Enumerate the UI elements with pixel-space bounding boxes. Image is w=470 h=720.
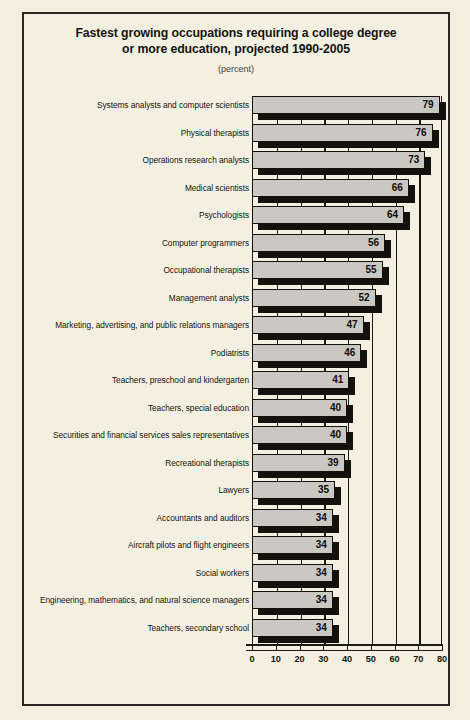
bar-value-label: 40 [330,430,346,440]
bar-face: 40 [252,399,347,417]
bar: 52 [252,289,376,313]
bar-value-label: 66 [392,183,408,193]
bar-category-label: Teachers, special education [29,403,249,413]
bar-face: 35 [252,481,335,499]
bar: 47 [252,316,364,340]
bar-row: Teachers, secondary school34 [24,619,452,647]
plot-area: Systems analysts and computer scientists… [24,90,452,702]
bar-value-label: 47 [347,320,363,330]
x-tick-label: 50 [366,654,376,664]
bar-row: Securities and financial services sales … [24,426,452,454]
bar-row: Occupational therapists55 [24,261,452,289]
x-tick-label: 10 [271,654,281,664]
bar-row: Teachers, preschool and kindergarten41 [24,371,452,399]
bar-category-label: Teachers, preschool and kindergarten [29,375,249,385]
bar-face: 79 [252,96,440,114]
bar-category-label: Physical therapists [29,128,249,138]
bar: 34 [252,619,333,643]
bar-value-label: 52 [358,293,374,303]
bar-face: 46 [252,344,361,362]
bar-value-label: 34 [316,540,332,550]
bar-face: 40 [252,426,347,444]
bar-row: Recreational therapists39 [24,454,452,482]
x-tick-10 [276,644,277,651]
bar-row: Engineering, mathematics, and natural sc… [24,591,452,619]
bar: 46 [252,344,361,368]
x-tick-30 [323,644,324,651]
bar-category-label: Aircraft pilots and flight engineers [29,540,249,550]
bar-face: 39 [252,454,345,472]
bar-row: Psychologists64 [24,206,452,234]
bar-value-label: 41 [332,375,348,385]
x-tick-label: 40 [342,654,352,664]
bar: 41 [252,371,349,395]
chart-subtitle: (percent) [24,64,448,74]
bar-row: Systems analysts and computer scientists… [24,96,452,124]
bar-face: 56 [252,234,385,252]
x-tick-20 [300,644,301,651]
bar-category-label: Engineering, mathematics, and natural sc… [29,595,249,605]
bar-category-label: Occupational therapists [29,265,249,275]
bar-face: 34 [252,591,333,609]
bar-series: Systems analysts and computer scientists… [24,96,452,644]
bar-category-label: Marketing, advertising, and public relat… [29,320,249,330]
bar-category-label: Psychologists [29,210,249,220]
bar-value-label: 35 [318,485,334,495]
bar-row: Lawyers35 [24,481,452,509]
bar-value-label: 39 [328,458,344,468]
bar: 66 [252,179,409,203]
x-tick-label: 70 [413,654,423,664]
bar-category-label: Teachers, secondary school [29,623,249,633]
title-block: Fastest growing occupations requiring a … [24,26,448,74]
x-tick-0 [252,644,253,651]
x-tick-label: 0 [249,654,254,664]
x-tick-label: 30 [318,654,328,664]
bar-row: Medical scientists66 [24,179,452,207]
bar-value-label: 76 [415,128,431,138]
bar-category-label: Systems analysts and computer scientists [29,100,249,110]
bar-category-label: Securities and financial services sales … [29,430,249,440]
bar-value-label: 55 [366,265,382,275]
bar-row: Operations research analysts73 [24,151,452,179]
bar-face: 34 [252,509,333,527]
bar-row: Management analysts52 [24,289,452,317]
bar-face: 34 [252,619,333,637]
bar-face: 66 [252,179,409,197]
bar-row: Accountants and auditors34 [24,509,452,537]
x-tick-80 [442,644,443,651]
bar-row: Computer programmers56 [24,234,452,262]
bar-value-label: 34 [316,595,332,605]
bar: 34 [252,509,333,533]
bar-face: 34 [252,536,333,554]
x-tick-label: 60 [389,654,399,664]
bar-row: Podiatrists46 [24,344,452,372]
chart-title-line-2: or more education, projected 1990-2005 [24,42,448,58]
bar: 73 [252,151,425,175]
bar-face: 73 [252,151,425,169]
bar: 34 [252,536,333,560]
bar-face: 64 [252,206,404,224]
bar: 35 [252,481,335,505]
bar-face: 52 [252,289,376,307]
x-tick-40 [347,644,348,651]
x-tick-70 [418,644,419,651]
bar-value-label: 34 [316,568,332,578]
bar-value-label: 40 [330,403,346,413]
bar-category-label: Lawyers [29,485,249,495]
bar-face: 47 [252,316,364,334]
bar-row: Marketing, advertising, and public relat… [24,316,452,344]
x-tick-label: 20 [294,654,304,664]
bar-category-label: Social workers [29,568,249,578]
x-tick-50 [371,644,372,651]
bar: 56 [252,234,385,258]
bar-value-label: 64 [387,210,403,220]
bar: 34 [252,591,333,615]
bar: 76 [252,124,433,148]
bar-face: 41 [252,371,349,389]
bar: 55 [252,261,383,285]
bar-row: Aircraft pilots and flight engineers34 [24,536,452,564]
chart-frame: Fastest growing occupations requiring a … [22,12,450,706]
bar: 40 [252,426,347,450]
bar-category-label: Recreational therapists [29,458,249,468]
bar-face: 76 [252,124,433,142]
